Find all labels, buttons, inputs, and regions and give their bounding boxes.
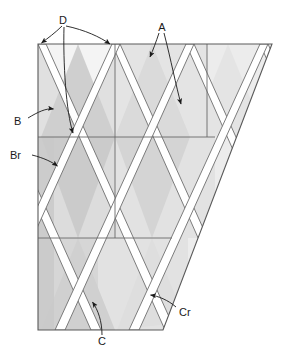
strand-dr-4 — [260, 44, 286, 330]
body-fills — [0, 44, 286, 330]
label-a: A — [158, 21, 166, 33]
leader-d-left — [42, 26, 63, 43]
strand-dl-5 — [277, 44, 286, 330]
label-cr: Cr — [179, 306, 191, 318]
lattice-diagram-svg: D A B Br C Cr — [0, 0, 286, 349]
label-br: Br — [10, 149, 21, 161]
label-d: D — [59, 14, 67, 26]
leader-d-right — [66, 26, 110, 44]
label-c: C — [98, 335, 106, 347]
diagram-root: D A B Br C Cr — [0, 0, 286, 349]
label-b: B — [14, 115, 21, 127]
